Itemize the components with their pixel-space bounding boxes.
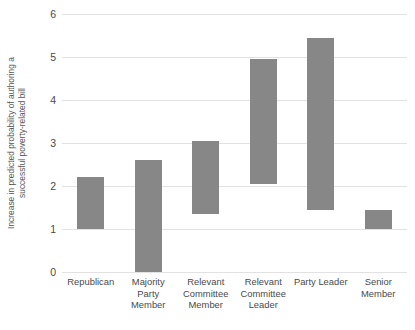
y-axis-title-line-1: Increase in predicted probability of aut… bbox=[6, 57, 17, 229]
x-axis-label-line: Committee bbox=[235, 288, 293, 300]
x-axis-label-line: Republican bbox=[62, 276, 120, 288]
gridline bbox=[62, 229, 407, 230]
bar-majority-party-member bbox=[135, 160, 162, 272]
x-axis-label-relevant-committee-leader: RelevantCommitteeLeader bbox=[235, 276, 293, 311]
y-axis-tick-label: 0 bbox=[50, 266, 56, 278]
x-axis-label-party-leader: Party Leader bbox=[292, 276, 350, 288]
gridline bbox=[62, 143, 407, 144]
y-axis-tick-label: 3 bbox=[50, 137, 56, 149]
y-axis-tick-label: 6 bbox=[50, 8, 56, 20]
bar-republican bbox=[77, 177, 104, 229]
gridline bbox=[62, 57, 407, 58]
y-axis-tick-label: 5 bbox=[50, 51, 56, 63]
bar-senior-member bbox=[365, 210, 392, 229]
x-axis-label-line: Member bbox=[120, 299, 178, 311]
x-axis-label-line: Committee bbox=[177, 288, 235, 300]
gridline bbox=[62, 100, 407, 101]
gridline bbox=[62, 14, 407, 15]
x-axis-label-line: Party bbox=[120, 288, 178, 300]
x-axis-label-senior-member: SeniorMember bbox=[350, 276, 408, 299]
x-axis-label-line: Member bbox=[177, 299, 235, 311]
x-axis-label-line: Relevant bbox=[177, 276, 235, 288]
x-axis-labels: RepublicanMajorityPartyMemberRelevantCom… bbox=[62, 276, 407, 328]
x-axis-label-line: Senior bbox=[350, 276, 408, 288]
x-axis-label-line: Majority bbox=[120, 276, 178, 288]
x-axis-label-relevant-committee-member: RelevantCommitteeMember bbox=[177, 276, 235, 311]
plot-area: 0123456 bbox=[62, 14, 407, 272]
bar-relevant-committee-member bbox=[192, 141, 219, 214]
gridline bbox=[62, 272, 407, 273]
gridline bbox=[62, 186, 407, 187]
bar-party-leader bbox=[307, 38, 334, 210]
x-axis-label-line: Relevant bbox=[235, 276, 293, 288]
x-axis-label-majority-party-member: MajorityPartyMember bbox=[120, 276, 178, 311]
y-axis-tick-label: 1 bbox=[50, 223, 56, 235]
x-axis-label-republican: Republican bbox=[62, 276, 120, 288]
x-axis-label-line: Leader bbox=[235, 299, 293, 311]
x-axis-label-line: Party Leader bbox=[292, 276, 350, 288]
y-axis-title: Increase in predicted probability of aut… bbox=[0, 0, 34, 285]
bar-relevant-committee-leader bbox=[250, 59, 277, 184]
y-axis-tick-label: 4 bbox=[50, 94, 56, 106]
x-axis-label-line: Member bbox=[350, 288, 408, 300]
y-axis-title-line-2: successful poverty-related bill bbox=[17, 57, 28, 229]
chart-container: Increase in predicted probability of aut… bbox=[0, 0, 415, 330]
y-axis-tick-label: 2 bbox=[50, 180, 56, 192]
